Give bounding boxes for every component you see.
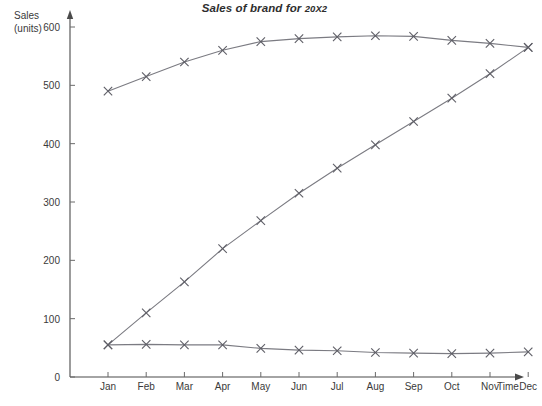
data-point-marker-x [218,244,226,252]
data-point-marker-x [180,278,188,286]
data-series-group [104,32,533,358]
series-lower-curve [104,340,533,358]
data-point-marker-x [409,117,417,125]
data-point-marker-x [142,72,150,80]
data-point-marker-x [218,46,226,54]
series-line [108,344,528,353]
data-point-marker-x [104,87,112,95]
series-line [108,47,528,345]
data-point-marker-x [448,94,456,102]
series-rising-curve [104,43,533,349]
data-point-marker-x [371,141,379,149]
x-axis-arrow-icon [515,374,524,381]
data-point-marker-x [333,164,341,172]
data-point-marker-x [486,69,494,77]
series-line [108,36,528,91]
data-point-marker-x [180,58,188,66]
data-point-marker-x [257,216,265,224]
series-upper-curve [104,32,533,96]
data-point-marker-x [142,309,150,317]
y-axis-arrow-icon [67,10,73,19]
data-point-marker-x [295,189,303,197]
